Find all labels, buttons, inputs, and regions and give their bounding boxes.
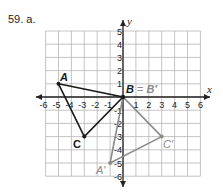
label-a-prime: A′ (95, 164, 106, 176)
x-tick-label: -2 (91, 100, 99, 110)
label-b-equals-b-prime: B = B′ (126, 83, 158, 95)
coordinate-plane: x y -6-5-4-3-2-112345654321-1-2-3-4-5-6 … (0, 0, 223, 194)
y-tick-label: 3 (117, 53, 122, 63)
label-c: C (73, 138, 81, 150)
y-tick-label: -6 (114, 172, 122, 182)
label-c-prime: C′ (163, 138, 174, 150)
label-b-prime: B′ (147, 83, 159, 95)
x-tick-label: -5 (53, 100, 61, 110)
vertex-a-prime (108, 161, 112, 165)
x-tick-label: -6 (40, 100, 48, 110)
x-tick-label: 6 (198, 100, 203, 110)
label-b: B (126, 83, 134, 95)
y-tick-label: 4 (117, 40, 122, 50)
x-tick-label: -3 (78, 100, 86, 110)
equals-sign: = (134, 83, 147, 95)
y-tick-label: -4 (114, 145, 122, 155)
y-axis-label: y (126, 15, 132, 27)
x-tick-label: 5 (185, 100, 190, 110)
x-tick-label: 4 (172, 100, 177, 110)
x-axis-label: x (206, 83, 212, 95)
label-a: A (59, 71, 68, 83)
x-tick-label: 2 (146, 100, 151, 110)
vertex-c (82, 135, 86, 139)
y-tick-label: 1 (117, 79, 122, 89)
y-tick-label: 2 (117, 66, 122, 76)
y-tick-label: 5 (117, 27, 122, 37)
vertex-b (121, 95, 125, 99)
x-tick-label: 3 (159, 100, 164, 110)
